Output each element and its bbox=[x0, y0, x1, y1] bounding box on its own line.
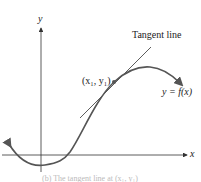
x-axis-label: x bbox=[190, 148, 194, 159]
function-label: y = f(x) bbox=[162, 86, 192, 97]
tangent-point bbox=[112, 80, 116, 84]
caption: (b) The tangent line at (x₁, y₁) bbox=[42, 174, 138, 182]
point-label: (x₁, y₁) bbox=[82, 75, 111, 86]
tangent-line-label: Tangent line bbox=[132, 29, 182, 40]
y-axis-label: y bbox=[38, 13, 42, 24]
